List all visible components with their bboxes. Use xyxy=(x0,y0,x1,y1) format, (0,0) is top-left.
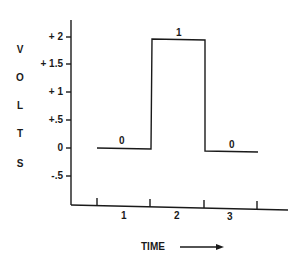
y-tick-label: + 2 xyxy=(23,32,63,42)
y-tick-label: + 1 xyxy=(23,87,63,97)
x-axis-title: TIME xyxy=(141,242,165,252)
arrow-head-icon xyxy=(216,244,224,250)
bit-label: 0 xyxy=(119,136,125,146)
x-tick-label: 3 xyxy=(227,212,233,222)
y-tick-label: -.5 xyxy=(23,171,63,181)
ylabel-letter: L xyxy=(14,100,26,111)
y-tick-label: +.5 xyxy=(23,115,63,125)
ylabel-letter: S xyxy=(14,158,26,169)
ylabel-letter: V xyxy=(14,44,26,55)
ylabel-letter: T xyxy=(14,128,26,139)
bit-label: 1 xyxy=(176,28,182,38)
x-tick-label: 1 xyxy=(121,211,127,221)
y-tick-label: 0 xyxy=(23,143,63,153)
x-tick-label: 2 xyxy=(174,211,180,221)
y-tick-label: + 1.5 xyxy=(23,59,63,69)
ylabel-letter: O xyxy=(14,72,26,83)
bit-label: 0 xyxy=(229,140,235,150)
